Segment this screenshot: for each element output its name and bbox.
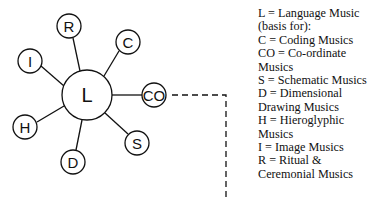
- legend-item-s: S = Schematic Musics: [258, 74, 370, 87]
- legend-item-l: L = Language Music (basis for):: [258, 7, 370, 34]
- node-i: I: [18, 49, 42, 73]
- legend-item-i: I = Image Musics: [258, 141, 370, 154]
- node-r: R: [57, 14, 81, 38]
- svg-text:R: R: [64, 18, 75, 35]
- svg-text:H: H: [20, 119, 31, 136]
- svg-text:S: S: [132, 135, 142, 152]
- svg-text:D: D: [68, 154, 79, 171]
- svg-text:I: I: [28, 53, 32, 70]
- node-d: D: [61, 150, 85, 174]
- legend-item-co: CO = Co-ordinate Musics: [258, 47, 370, 74]
- legend-item-c: C = Coding Musics: [258, 34, 370, 47]
- node-l: L: [62, 70, 112, 120]
- svg-text:L: L: [81, 84, 92, 106]
- node-c: C: [116, 30, 140, 54]
- node-h: H: [13, 115, 37, 139]
- svg-text:CO: CO: [143, 87, 166, 104]
- legend-item-r: R = Ritual & Ceremonial Musics: [258, 154, 370, 181]
- node-co: CO: [142, 83, 166, 107]
- legend-item-h: H = Hieroglyphic Musics: [258, 114, 370, 141]
- node-s: S: [125, 131, 149, 155]
- legend: L = Language Music (basis for): C = Codi…: [258, 7, 370, 181]
- svg-text:C: C: [123, 34, 134, 51]
- legend-item-d: D = Dimensional Drawing Musics: [258, 87, 370, 114]
